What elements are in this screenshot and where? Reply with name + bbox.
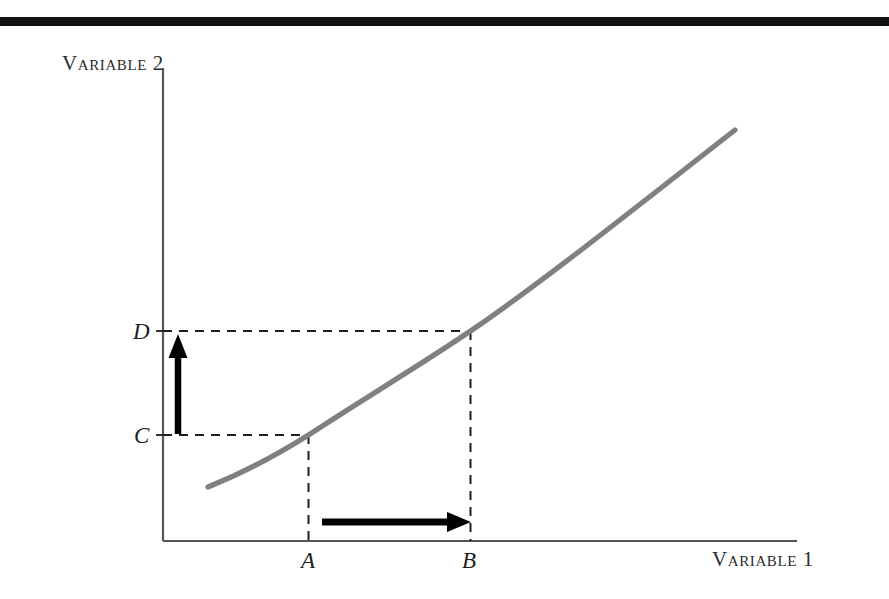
x-tick-label-A: A <box>301 549 315 572</box>
y-tick-label-D: D <box>133 320 150 343</box>
figure-root: Variable 2 Variable 1 D C A B <box>0 0 889 599</box>
y-axis-title: Variable 2 <box>62 53 164 74</box>
horizontal-change-arrow <box>322 512 471 532</box>
chart-canvas <box>0 0 889 599</box>
x-tick-label-B: B <box>462 549 476 572</box>
x-axis-title: Variable 1 <box>712 549 814 570</box>
vertical-change-arrow <box>169 334 188 434</box>
y-tick-label-C: C <box>134 424 149 447</box>
